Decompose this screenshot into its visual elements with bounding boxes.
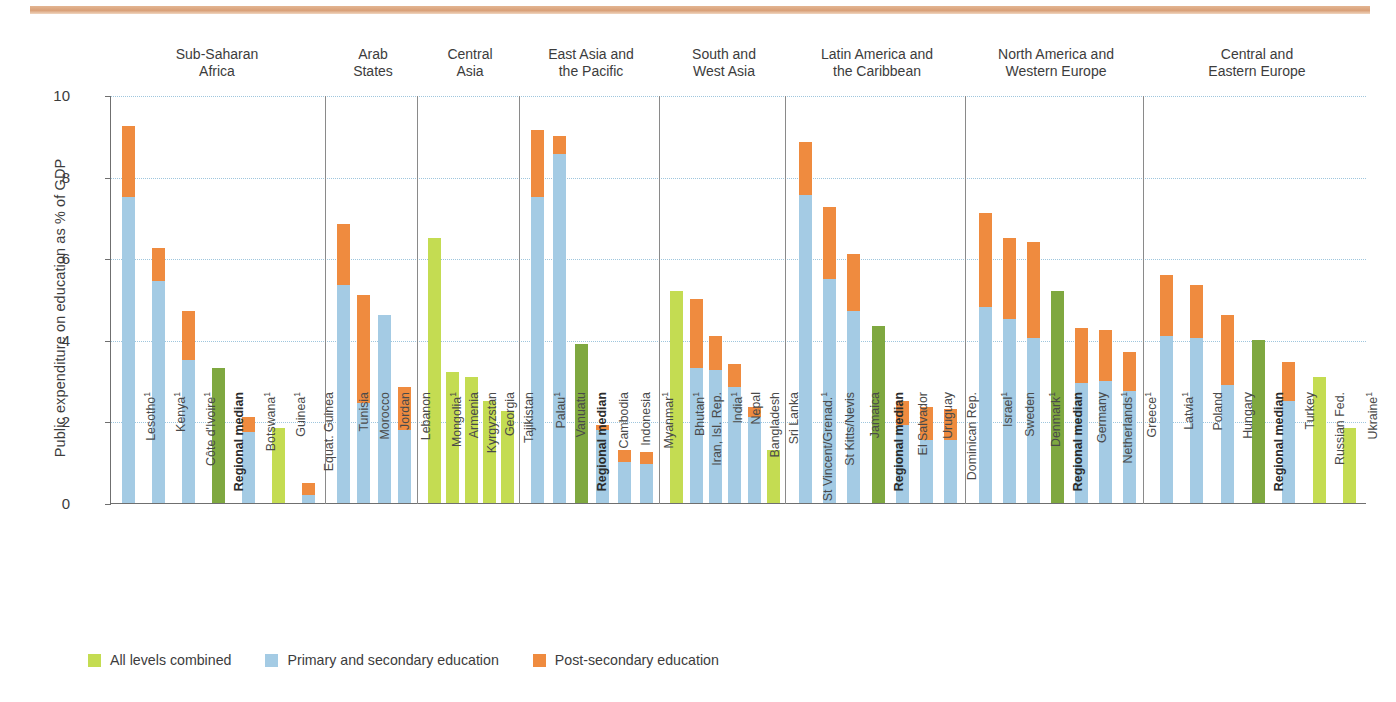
x-axis-label-0-g7: Latvia1: [1180, 392, 1196, 512]
chart-figure: Public expenditure on education as % of …: [0, 0, 1396, 702]
segment-post-secondary: [122, 126, 135, 197]
x-axis-label-6-g5: Dominican Rep.: [965, 392, 979, 512]
legend-swatch-icon: [265, 654, 278, 667]
segment-post-secondary: [1003, 238, 1016, 320]
y-tick-label-10: 10: [30, 87, 70, 104]
x-axis-label-3-g3: Cambodia: [617, 392, 631, 512]
chart-legend: All levels combinedPrimary and secondary…: [88, 652, 753, 668]
footnote-marker: 1: [448, 392, 458, 397]
x-axis-label-4-g3: Indonesia: [639, 392, 653, 512]
y-tick-label-4: 4: [30, 332, 70, 349]
y-tick-label-6: 6: [30, 250, 70, 267]
legend-item-0[interactable]: All levels combined: [88, 652, 231, 668]
footnote-marker: 1: [202, 392, 212, 397]
footnote-marker: 1: [142, 392, 152, 397]
x-axis-label-5-g0: Guinea1: [292, 392, 308, 512]
x-axis-label-1-g0: Kenya1: [172, 392, 188, 512]
footnote-marker: 1: [1180, 392, 1190, 397]
legend-label: Post-secondary education: [555, 652, 719, 668]
y-tick-label-8: 8: [30, 169, 70, 186]
legend-item-2[interactable]: Post-secondary education: [533, 652, 719, 668]
footnote-marker: 1: [552, 392, 562, 397]
segment-primary-secondary: [337, 285, 350, 503]
footnote-marker: 1: [1364, 392, 1374, 397]
x-axis-label-2-g0: Côte d'Ivoire1: [202, 392, 218, 512]
segment-post-secondary: [847, 254, 860, 311]
group-separator-5: [785, 96, 786, 504]
x-axis-label-2-g2: Kyrgyzstan: [485, 392, 499, 512]
footnote-marker: 1: [1119, 392, 1129, 397]
x-axis-label-2-g7: Hungary: [1241, 392, 1255, 512]
gridline-6: [111, 259, 1366, 260]
x-axis-label-6-g6: Greece1: [1143, 392, 1159, 512]
segment-post-secondary: [152, 248, 165, 281]
legend-label: All levels combined: [110, 652, 231, 668]
segment-post-secondary: [823, 207, 836, 278]
legend-label: Primary and secondary education: [287, 652, 498, 668]
y-tick-mark-0: [105, 504, 111, 505]
x-axis-label-1-g2: Armenia: [467, 392, 481, 512]
segment-post-secondary: [1190, 285, 1203, 338]
segment-post-secondary: [979, 213, 992, 307]
x-axis-label-0-g4: Bhutan1: [691, 392, 707, 512]
y-tick-label-0: 0: [30, 495, 70, 512]
legend-item-1[interactable]: Primary and secondary education: [265, 652, 498, 668]
segment-post-secondary: [709, 336, 722, 371]
x-axis-label-0-g6: Israel1: [999, 392, 1015, 512]
footnote-marker: 1: [729, 392, 739, 397]
footnote-marker: 1: [1047, 392, 1057, 397]
y-tick-mark-2: [105, 422, 111, 423]
segment-post-secondary: [1099, 330, 1112, 381]
gridline-8: [111, 178, 1366, 179]
x-axis-label-5-g3: Myanmar1: [660, 392, 676, 512]
segment-post-secondary: [553, 136, 566, 154]
x-axis-label-6-g7: Ukraine1: [1364, 392, 1380, 512]
x-axis-label-5-g5: Uruguay: [941, 392, 955, 512]
x-axis-label-4-g4: Bangladesh: [768, 392, 782, 512]
segment-post-secondary: [182, 311, 195, 360]
x-axis-label-0-g1: Tunisia: [357, 392, 371, 512]
footnote-marker: 1: [660, 392, 670, 397]
x-axis-label-5-g6: Netherlands1: [1119, 392, 1135, 512]
x-axis-label-3-g7: Regional median: [1272, 392, 1286, 512]
segment-primary-secondary: [979, 307, 992, 503]
footnote-marker: 1: [691, 392, 701, 397]
segment-post-secondary: [728, 364, 741, 386]
footnote-marker: 1: [819, 392, 829, 397]
footnote-marker: 1: [172, 392, 182, 397]
gridline-4: [111, 341, 1366, 342]
group-header-line1: Central and: [1110, 46, 1396, 63]
footnote-marker: 1: [292, 392, 302, 397]
group-separator-3: [519, 96, 520, 504]
x-axis-label-4-g6: Germany: [1095, 392, 1109, 512]
x-axis-label-3-g4: Nepal: [749, 392, 763, 512]
x-axis-label-3-g6: Regional median: [1071, 392, 1085, 512]
x-axis-label-2-g5: Jamaica: [868, 392, 882, 512]
y-tick-mark-6: [105, 259, 111, 260]
x-axis-label-2-g3: Regional median: [595, 392, 609, 512]
x-axis-label-5-g7: Russian Fed.: [1333, 392, 1347, 512]
x-axis-label-1-g7: Poland: [1211, 392, 1225, 512]
segment-post-secondary: [357, 295, 370, 403]
segment-post-secondary: [1075, 328, 1088, 383]
y-tick-label-2: 2: [30, 413, 70, 430]
x-axis-label-2-g4: India1: [729, 392, 745, 512]
x-axis-label-0-g0: Lesotho1: [142, 392, 158, 512]
segment-post-secondary: [1221, 315, 1234, 384]
x-axis-label-3-g5: Regional median: [892, 392, 906, 512]
x-axis-label-4-g2: Tajikistan: [522, 392, 536, 512]
segment-post-secondary: [337, 224, 350, 285]
legend-swatch-icon: [88, 654, 101, 667]
x-axis-label-5-g4: Sri Lanka: [787, 392, 801, 512]
footnote-marker: 1: [262, 392, 272, 397]
x-axis-label-1-g5: St Kitts/Nevis: [843, 392, 857, 512]
segment-post-secondary: [1160, 275, 1173, 336]
y-tick-mark-8: [105, 178, 111, 179]
segment-post-secondary: [1123, 352, 1136, 391]
x-axis-label-0-g3: Palau1: [552, 392, 568, 512]
x-axis-label-3-g0: Regional median: [232, 392, 246, 512]
segment-post-secondary: [690, 299, 703, 368]
x-axis-label-3-g1: Lebanon: [419, 392, 433, 512]
legend-swatch-icon: [533, 654, 546, 667]
gridline-10: [111, 96, 1366, 97]
